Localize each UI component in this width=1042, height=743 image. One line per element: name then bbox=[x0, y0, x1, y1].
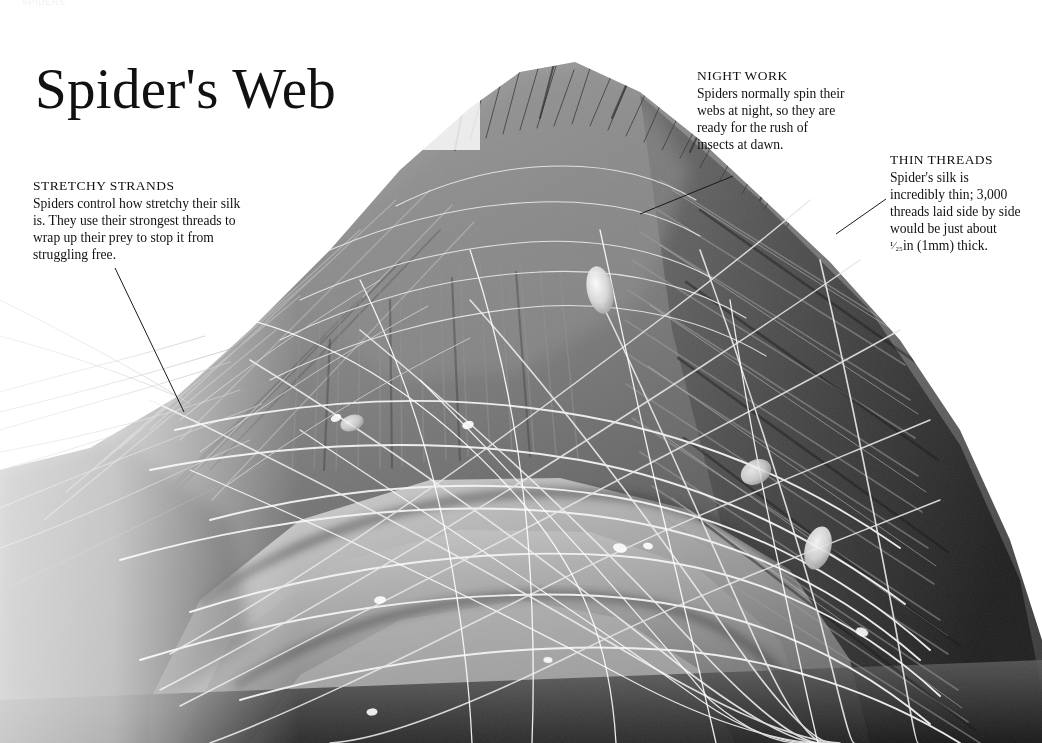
page-title: Spider's Web bbox=[35, 60, 336, 117]
callout-body-night-work: Spiders normally spin their webs at nigh… bbox=[697, 85, 847, 153]
callout-thin-threads: THIN THREADS Spider's silk is incredibly… bbox=[890, 152, 1022, 254]
callout-body-thin-threads-part1: Spider's silk is incredibly thin; 3,000 … bbox=[890, 170, 1021, 236]
page-spread: SPIDERS Spider's Web STRETCHY STRANDS Sp… bbox=[0, 0, 1042, 743]
fraction-one-twentyfifth: ¹⁄₂₅ bbox=[890, 239, 903, 251]
callout-body-thin-threads: Spider's silk is incredibly thin; 3,000 … bbox=[890, 169, 1022, 254]
callout-body-thin-threads-part2: in (1mm) thick. bbox=[903, 238, 988, 253]
callout-stretchy-strands: STRETCHY STRANDS Spiders control how str… bbox=[33, 178, 245, 263]
callout-body-stretchy-strands: Spiders control how stretchy their silk … bbox=[33, 195, 245, 263]
callout-night-work: NIGHT WORK Spiders normally spin their w… bbox=[697, 68, 847, 153]
callout-heading-stretchy-strands: STRETCHY STRANDS bbox=[33, 178, 245, 194]
callout-heading-night-work: NIGHT WORK bbox=[697, 68, 847, 84]
running-header: SPIDERS bbox=[22, 0, 66, 7]
callout-heading-thin-threads: THIN THREADS bbox=[890, 152, 1022, 168]
